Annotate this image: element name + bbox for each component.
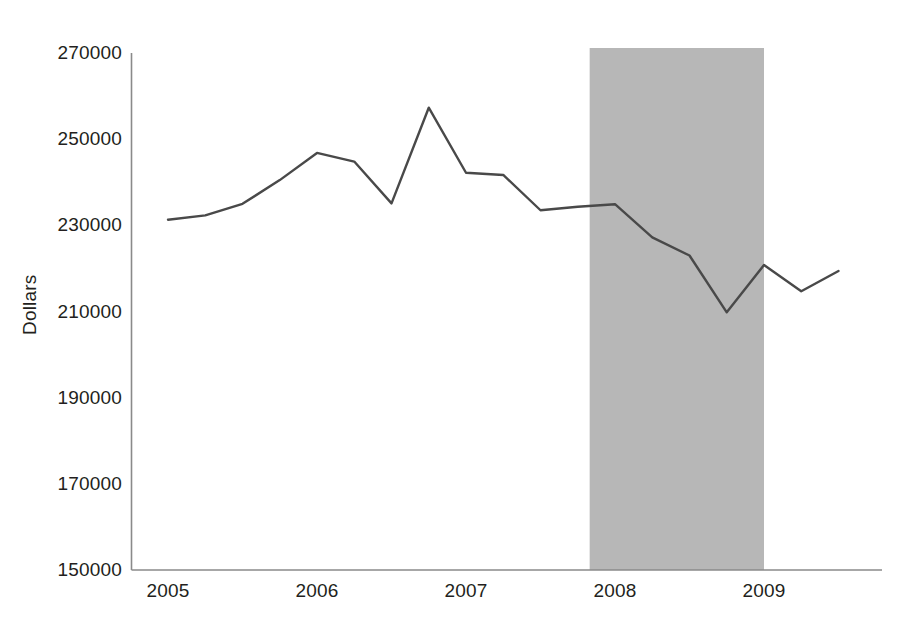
- chart-figure: Dollars 270000 250000 230000 210000 1900…: [0, 0, 916, 633]
- y-axis-title: Dollars: [19, 295, 41, 335]
- x-tick-label-2006: 2006: [278, 580, 356, 602]
- y-tick-label-270000: 270000: [44, 42, 122, 64]
- x-tick-label-2009: 2009: [725, 580, 803, 602]
- y-tick-label-230000: 230000: [44, 214, 122, 236]
- y-tick-label-210000: 210000: [44, 301, 122, 323]
- y-tick-label-190000: 190000: [44, 387, 122, 409]
- y-tick-label-250000: 250000: [44, 128, 122, 150]
- x-tick-label-2008: 2008: [576, 580, 654, 602]
- y-tick-label-170000: 170000: [44, 473, 122, 495]
- x-tick-label-2005: 2005: [129, 580, 207, 602]
- line-chart-plot: [0, 0, 916, 633]
- x-tick-label-2007: 2007: [427, 580, 505, 602]
- recession-shaded-band: [590, 48, 764, 570]
- y-tick-label-150000: 150000: [44, 559, 122, 581]
